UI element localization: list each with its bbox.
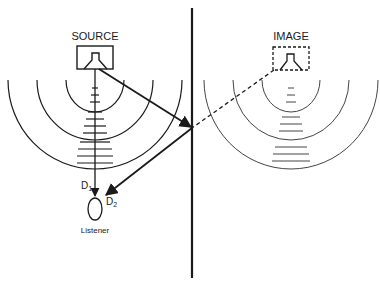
speaker-icon [84, 53, 107, 69]
reflected-path-D2 [106, 128, 192, 195]
listener-label: Listener [81, 226, 110, 235]
virtual-path-dashed [192, 70, 274, 128]
image-speaker-icon [280, 54, 302, 70]
image-wavefronts [204, 80, 378, 169]
incident-path [99, 69, 191, 127]
image-wave-ticks [272, 88, 310, 161]
image-label: IMAGE [273, 30, 308, 42]
source-speaker-box [77, 46, 113, 69]
image-speaker-box-dashed [273, 47, 309, 70]
sound-reflection-diagram: SOURCE IMAGE [0, 0, 380, 284]
d1-label: D1 [81, 180, 92, 192]
source-label: SOURCE [71, 30, 118, 42]
listener [88, 198, 102, 220]
d2-label: D2 [106, 196, 117, 208]
